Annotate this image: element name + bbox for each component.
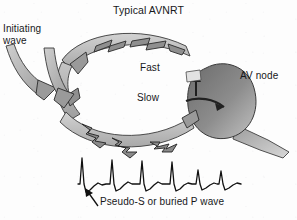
slow-arrow-3 (150, 142, 177, 152)
initiating-wave-label: Initiating wave (3, 23, 41, 46)
ecg-annotation-arrow-head (85, 188, 93, 197)
avnrt-illustration (0, 0, 297, 220)
slow-pathway-label: Slow (137, 92, 159, 104)
fast-pathway-label: Fast (140, 62, 160, 74)
fast-pathway-junction (186, 70, 201, 82)
ecg-caption-label: Pseudo-S or buried P wave (100, 196, 224, 208)
avnrt-figure: Typical AVNRT Initiating wave Fast Slow … (0, 0, 297, 220)
slow-pathway-band (60, 112, 194, 147)
ecg-trace (78, 158, 241, 192)
fast-pathway-graphic (62, 33, 190, 74)
slow-pathway-graphic (60, 110, 199, 158)
av-node-label: AV node (240, 70, 278, 82)
figure-title: Typical AVNRT (113, 5, 184, 17)
